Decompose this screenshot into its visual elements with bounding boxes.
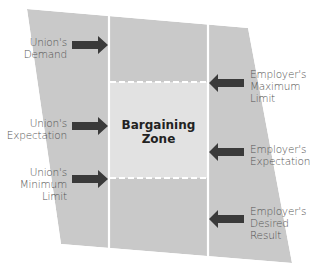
label-union-demand: Union's Demand: [5, 36, 67, 60]
label-line: Limit: [5, 190, 67, 202]
label-line: Union's: [0, 117, 67, 129]
label-union-minimum-limit: Union's Minimum Limit: [5, 166, 67, 202]
label-employer-expectation: Employer's Expectation: [250, 143, 325, 167]
label-line: Result: [250, 229, 325, 241]
label-employer-maximum-limit: Employer's Maximum Limit: [250, 68, 325, 104]
label-line: Employer's: [250, 68, 325, 80]
label-line: Demand: [5, 48, 67, 60]
zone-label-line: Zone: [110, 132, 207, 146]
label-line: Maximum: [250, 80, 325, 92]
bargaining-zone-label: Bargaining Zone: [110, 118, 207, 146]
label-line: Limit: [250, 92, 325, 104]
label-employer-desired-result: Employer's Desired Result: [250, 205, 325, 241]
label-union-expectation: Union's Expectation: [0, 117, 67, 141]
label-line: Expectation: [250, 155, 325, 167]
label-line: Union's: [5, 166, 67, 178]
label-line: Employer's: [250, 143, 325, 155]
label-line: Desired: [250, 217, 325, 229]
label-line: Expectation: [0, 129, 67, 141]
label-line: Minimum: [5, 178, 67, 190]
label-line: Employer's: [250, 205, 325, 217]
zone-label-line: Bargaining: [110, 118, 207, 132]
label-line: Union's: [5, 36, 67, 48]
